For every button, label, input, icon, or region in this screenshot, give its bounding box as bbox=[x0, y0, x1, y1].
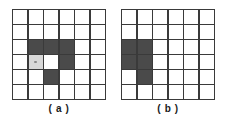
grid-a-cell-r5-c5 bbox=[91, 85, 105, 99]
grid-a-cell-r5-c0 bbox=[13, 85, 27, 99]
grid-a-cell-r1-c4 bbox=[75, 25, 89, 39]
grid-a-cell-r0-c4 bbox=[75, 10, 89, 24]
grid-b-cell-r5-c4 bbox=[184, 85, 198, 99]
grid-b-cell-r4-c5 bbox=[200, 70, 214, 84]
grid-b-cell-r3-c2 bbox=[153, 55, 167, 69]
grid-a-cell-r3-c3 bbox=[60, 55, 74, 69]
grid-b-cell-r2-c4 bbox=[184, 40, 198, 54]
grid-b-cell-r0-c4 bbox=[184, 10, 198, 24]
caption-b: ( b ) bbox=[121, 103, 215, 114]
grid-b-cell-r0-c0 bbox=[122, 10, 136, 24]
grid-b-cell-r3-c0 bbox=[122, 55, 136, 69]
grid-a-cell-r4-c2 bbox=[44, 70, 58, 84]
grid-b-cell-r4-c0 bbox=[122, 70, 136, 84]
grid-a-cell-r0-c5 bbox=[91, 10, 105, 24]
grid-a-cell-r5-c2 bbox=[44, 85, 58, 99]
grid-a-cell-r4-c4 bbox=[75, 70, 89, 84]
grid-b-cell-r5-c5 bbox=[200, 85, 214, 99]
grid-a-cell-r3-c1 bbox=[29, 55, 43, 69]
grid-a-cell-r5-c1 bbox=[29, 85, 43, 99]
figure-root: ( a ) ( b ) bbox=[0, 0, 227, 125]
grid-b-cell-r1-c1 bbox=[138, 25, 152, 39]
grid-a-cell-r4-c3 bbox=[60, 70, 74, 84]
grid-a-cell-r2-c1 bbox=[29, 40, 43, 54]
grid-a-cell-r2-c0 bbox=[13, 40, 27, 54]
grid-b-cell-r3-c5 bbox=[200, 55, 214, 69]
grid-b-cell-r3-c1 bbox=[138, 55, 152, 69]
grid-b-cell-r4-c2 bbox=[153, 70, 167, 84]
grid-b-cell-r1-c2 bbox=[153, 25, 167, 39]
grid-a-cell-r1-c5 bbox=[91, 25, 105, 39]
grid-a-cell-r2-c3 bbox=[60, 40, 74, 54]
panel-b bbox=[121, 9, 215, 100]
grid-b-cell-r5-c3 bbox=[169, 85, 183, 99]
grid-a-cell-r0-c2 bbox=[44, 10, 58, 24]
grid-a-cell-r5-c4 bbox=[75, 85, 89, 99]
grid-a-cell-r3-c0 bbox=[13, 55, 27, 69]
grid-b-cell-r0-c2 bbox=[153, 10, 167, 24]
grid-b-cell-r2-c5 bbox=[200, 40, 214, 54]
grid-a-cell-r1-c3 bbox=[60, 25, 74, 39]
grid-a-cell-r5-c3 bbox=[60, 85, 74, 99]
grid-a-cell-r2-c4 bbox=[75, 40, 89, 54]
grid-a-cell-r2-c2 bbox=[44, 40, 58, 54]
grid-b bbox=[121, 9, 215, 100]
grid-b-cell-r0-c3 bbox=[169, 10, 183, 24]
grid-a-cell-r1-c1 bbox=[29, 25, 43, 39]
grid-a-cell-r4-c0 bbox=[13, 70, 27, 84]
grid-b-cell-r5-c2 bbox=[153, 85, 167, 99]
grid-a-cell-r3-c5 bbox=[91, 55, 105, 69]
grid-b-cell-r0-c1 bbox=[138, 10, 152, 24]
grid-b-cell-r2-c0 bbox=[122, 40, 136, 54]
grid-b-cell-r3-c3 bbox=[169, 55, 183, 69]
grid-a-cell-r2-c5 bbox=[91, 40, 105, 54]
grid-b-cell-r4-c3 bbox=[169, 70, 183, 84]
panel-a bbox=[12, 9, 106, 100]
grid-b-cell-r2-c3 bbox=[169, 40, 183, 54]
grid-b-cell-r1-c4 bbox=[184, 25, 198, 39]
grid-b-cell-r3-c4 bbox=[184, 55, 198, 69]
grid-b-cell-r0-c5 bbox=[200, 10, 214, 24]
caption-a: ( a ) bbox=[12, 103, 106, 114]
grid-a-cell-r0-c1 bbox=[29, 10, 43, 24]
grid-a-cell-r3-c4 bbox=[75, 55, 89, 69]
grid-b-cell-r4-c1 bbox=[138, 70, 152, 84]
grid-b-cell-r5-c1 bbox=[138, 85, 152, 99]
grid-a-cell-r3-c2 bbox=[44, 55, 58, 69]
grid-a bbox=[12, 9, 106, 100]
grid-a-cell-r1-c2 bbox=[44, 25, 58, 39]
grid-a-cell-r0-c0 bbox=[13, 10, 27, 24]
grid-b-cell-r2-c1 bbox=[138, 40, 152, 54]
grid-b-cell-r1-c0 bbox=[122, 25, 136, 39]
grid-a-cell-r4-c5 bbox=[91, 70, 105, 84]
grid-b-cell-r5-c0 bbox=[122, 85, 136, 99]
grid-a-cell-r1-c0 bbox=[13, 25, 27, 39]
grid-a-cell-r0-c3 bbox=[60, 10, 74, 24]
grid-b-cell-r1-c5 bbox=[200, 25, 214, 39]
grid-b-cell-r4-c4 bbox=[184, 70, 198, 84]
grid-b-cell-r2-c2 bbox=[153, 40, 167, 54]
grid-b-cell-r1-c3 bbox=[169, 25, 183, 39]
grid-a-cell-r4-c1 bbox=[29, 70, 43, 84]
